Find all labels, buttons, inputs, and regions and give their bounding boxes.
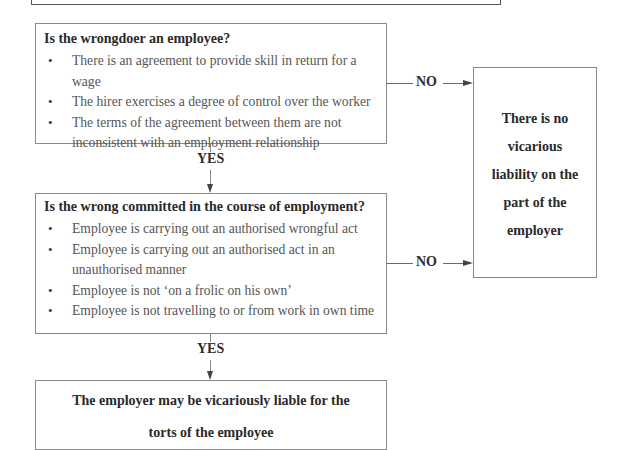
no-label-2: NO xyxy=(416,254,437,270)
criterion-item: The hirer exercises a degree of control … xyxy=(44,92,378,113)
outcome-yes-line-2: torts of the employee xyxy=(36,417,386,449)
yes-label-2: YES xyxy=(197,341,224,357)
outcome-no-liability-box: There is no vicarious liability on the p… xyxy=(473,67,597,278)
arrow-right-icon xyxy=(463,260,473,266)
criteria-list-course: Employee is carrying out an authorised w… xyxy=(44,219,378,322)
outcome-no-line: part of the xyxy=(474,189,596,217)
criterion-item: The terms of the agreement between them … xyxy=(44,113,378,154)
arrow-right-icon xyxy=(463,80,473,86)
criterion-item: Employee is not travelling to or from wo… xyxy=(44,301,378,322)
criterion-item: Employee is carrying out an authorised w… xyxy=(44,219,378,240)
question-box-employee: Is the wrongdoer an employee? There is a… xyxy=(35,23,387,144)
outcome-no-line: employer xyxy=(474,217,596,245)
outcome-no-line: vicarious xyxy=(474,133,596,161)
no-connector-line-2a xyxy=(387,263,413,264)
question-title-course: Is the wrong committed in the course of … xyxy=(44,197,378,217)
criterion-item: Employee is not ‘on a frolic on his own’ xyxy=(44,281,378,302)
top-frame-remnant xyxy=(31,0,501,5)
arrow-down-icon xyxy=(207,184,213,193)
criterion-item: Employee is carrying out an authorised a… xyxy=(44,240,378,281)
no-connector-line-1a xyxy=(387,83,413,84)
yes-label-1: YES xyxy=(197,151,224,167)
outcome-yes-line-1: The employer may be vicariously liable f… xyxy=(36,385,386,417)
question-box-course-of-employment: Is the wrong committed in the course of … xyxy=(35,193,387,334)
yes-connector-line-1b xyxy=(210,170,211,184)
criteria-list-employee: There is an agreement to provide skill i… xyxy=(44,51,378,154)
no-connector-line-1b xyxy=(443,83,463,84)
outcome-vicarious-liability-box: The employer may be vicariously liable f… xyxy=(35,380,387,450)
no-connector-line-2b xyxy=(443,263,463,264)
criterion-item: There is an agreement to provide skill i… xyxy=(44,51,378,92)
no-label-1: NO xyxy=(416,74,437,90)
question-title-employee: Is the wrongdoer an employee? xyxy=(44,29,378,49)
arrow-down-icon xyxy=(207,371,213,380)
outcome-no-line: liability on the xyxy=(474,161,596,189)
outcome-no-line: There is no xyxy=(474,105,596,133)
